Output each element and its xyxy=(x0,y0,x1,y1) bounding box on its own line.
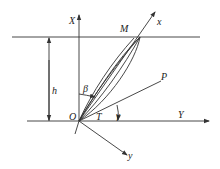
label-h: h xyxy=(52,85,57,96)
label-O: O xyxy=(69,111,76,122)
label-x: x xyxy=(156,16,162,27)
x-axis xyxy=(79,12,155,121)
label-M: M xyxy=(119,23,129,34)
diagram-canvas: X x M P h β γ T O Y y xyxy=(0,0,220,169)
label-gamma: γ xyxy=(116,110,121,121)
label-Y: Y xyxy=(178,109,185,120)
label-X: X xyxy=(68,15,76,26)
label-P: P xyxy=(160,71,167,82)
x-axis-extension xyxy=(75,121,79,134)
coordinate-diagram: X x M P h β γ T O Y y xyxy=(0,0,220,169)
y-axis xyxy=(79,121,127,155)
label-T: T xyxy=(96,111,103,122)
label-beta: β xyxy=(82,83,88,94)
label-y: y xyxy=(127,150,133,161)
